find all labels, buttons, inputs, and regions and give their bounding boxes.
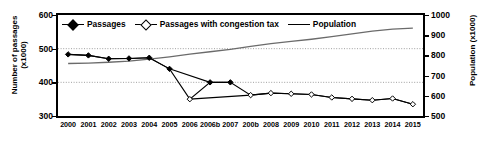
y-axis-right-tick: 800 <box>431 50 461 60</box>
x-axis-tick: 2006b <box>200 120 220 129</box>
x-axis-tick: 2003 <box>121 120 137 129</box>
legend-label-passages-congestion-tax: Passages with congestion tax <box>160 19 279 29</box>
x-axis-tick: 2001 <box>80 120 96 129</box>
y-axis-right-tickmark <box>425 116 429 117</box>
x-axis-tick: 2013 <box>364 120 380 129</box>
x-axis-tick: 2009 <box>283 120 299 129</box>
x-axis-tick: 2010 <box>303 120 319 129</box>
x-axis-tick: 2012 <box>344 120 360 129</box>
chart-figure: Number of passages (x1000) Population (x… <box>0 0 491 143</box>
y-axis-left-tickmark <box>52 116 56 117</box>
x-axis-tick: 2000 <box>60 120 76 129</box>
legend-item-passages-congestion-tax: Passages with congestion tax <box>135 19 279 29</box>
legend-item-population: Population <box>288 19 356 29</box>
x-axis-tick: 2015 <box>405 120 421 129</box>
y-axis-right-tickmark <box>425 96 429 97</box>
y-axis-left-title-line1: Number of passages <box>10 10 19 100</box>
legend-label-population: Population <box>313 19 356 29</box>
x-axis-tick: 2002 <box>101 120 117 129</box>
y-axis-right-tick: 900 <box>431 30 461 40</box>
y-axis-right-tickmark <box>425 15 429 16</box>
x-axis-tick: 2005 <box>162 120 178 129</box>
y-axis-right-tick: 600 <box>431 91 461 101</box>
y-axis-left-tick: 300 <box>27 111 53 121</box>
y-axis-left-tick: 400 <box>27 77 53 87</box>
y-axis-left-tickmark <box>52 49 56 50</box>
x-axis-tick: 2011 <box>324 120 340 129</box>
x-axis-tick: 2007 <box>222 120 238 129</box>
y-axis-right-tickmark <box>425 55 429 56</box>
x-axis-tick: 2014 <box>385 120 401 129</box>
legend-label-passages: Passages <box>87 19 126 29</box>
legend-item-passages: Passages <box>62 19 126 29</box>
x-axis-tick: 2006 <box>182 120 198 129</box>
y-axis-right-tickmark <box>425 35 429 36</box>
plot-svg <box>58 15 423 116</box>
y-axis-right-tick: 500 <box>431 111 461 121</box>
y-axis-right-tick: 1000 <box>431 10 461 20</box>
x-axis-tick: 200b <box>242 120 258 129</box>
y-axis-left-tickmark <box>52 15 56 16</box>
y-axis-right-title: Population (x1000) <box>468 6 477 96</box>
y-axis-left-tickmark <box>52 82 56 83</box>
open-diamond-line-icon <box>135 20 157 29</box>
x-axis-tick: 2004 <box>141 120 157 129</box>
chart-legend: Passages Passages with congestion tax Po… <box>62 19 356 29</box>
y-axis-right-tick: 700 <box>431 71 461 81</box>
x-axis-tick: 2008 <box>263 120 279 129</box>
plain-line-icon <box>288 20 310 29</box>
y-axis-left-title: Number of passages (x1000) <box>10 10 28 100</box>
filled-diamond-line-icon <box>62 20 84 29</box>
y-axis-left-tick: 500 <box>27 44 53 54</box>
y-axis-right-tickmark <box>425 76 429 77</box>
y-axis-left-tick: 600 <box>27 10 53 20</box>
